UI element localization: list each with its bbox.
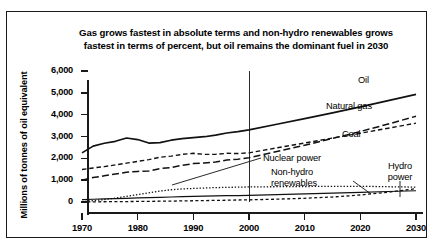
series-label-hydro-power: power — [377, 172, 423, 182]
series-line-natural-gas — [82, 116, 416, 180]
series-label-natural-gas: Natural gas — [326, 101, 392, 111]
series-label-oil: Oil — [358, 75, 378, 85]
series-line-hydro-power — [82, 191, 416, 200]
series-label-nuclear-power: Nuclear power — [263, 153, 339, 163]
series-line-nuclear-power — [82, 186, 416, 201]
series-label-non-hydro-renewables: Non-hydro — [271, 167, 353, 177]
series-label-coal: Coal — [342, 129, 370, 139]
chart-frame: Gas grows fastest in absolute terms and … — [6, 11, 427, 238]
series-label-non-hydro-renewables: renewables — [271, 178, 353, 188]
series-label-hydro-power: Hydro — [377, 161, 423, 171]
chart-lines — [7, 12, 428, 239]
